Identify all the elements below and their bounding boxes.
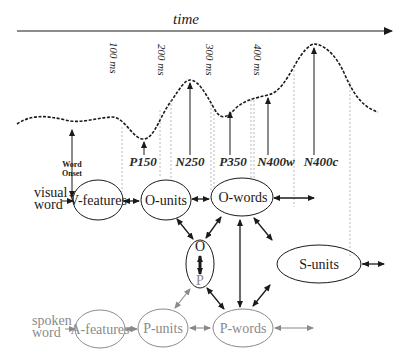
connection-owords-op xyxy=(206,217,221,238)
bimodal-interactive-activation-diagram: time 100 ms 200 ms 300 ms 400 ms P150 N2… xyxy=(0,0,404,361)
node-o-units: O-units xyxy=(141,180,191,220)
a-features-label: A-features xyxy=(70,322,129,337)
tick-label-200ms: 200 ms xyxy=(156,44,168,75)
spoken-word-input: spoken word xyxy=(32,313,75,340)
o-units-label: O-units xyxy=(145,193,187,208)
op-label-p: P xyxy=(196,273,204,288)
tick-label-100ms: 100 ms xyxy=(108,42,120,73)
connection-sunits-pwords xyxy=(253,285,270,306)
time-axis-label: time xyxy=(173,11,199,27)
op-label-o: O xyxy=(195,239,205,254)
node-s-units: S-units xyxy=(277,245,361,283)
component-label-n250: N250 xyxy=(175,154,205,169)
tick-label-400ms: 400 ms xyxy=(252,44,264,75)
word-onset-line1: Word xyxy=(62,160,82,169)
node-p-units: P-units xyxy=(138,309,188,347)
node-v-features: V-features xyxy=(69,180,127,220)
erp-waveform xyxy=(17,44,378,139)
word-onset-line2: Onset xyxy=(62,169,82,178)
component-label-n400w: N400w xyxy=(256,154,295,169)
component-label-p150: P150 xyxy=(129,154,157,169)
p-words-label: P-words xyxy=(220,321,267,336)
component-labels: P150 N250 P350 N400w N400c xyxy=(129,154,338,169)
connection-ounits-op xyxy=(177,219,193,239)
connection-punits-op xyxy=(175,289,190,308)
component-label-p350: P350 xyxy=(219,154,247,169)
tick-label-300ms: 300 ms xyxy=(204,43,216,75)
visual-word-input: visual word xyxy=(34,185,73,212)
time-ticks: 100 ms 200 ms 300 ms 400 ms xyxy=(108,42,264,75)
node-a-features: A-features xyxy=(70,310,129,348)
s-units-label: S-units xyxy=(299,257,339,272)
p-units-label: P-units xyxy=(143,321,183,336)
v-features-label: V-features xyxy=(69,193,127,208)
connection-owords-sunits xyxy=(254,218,272,240)
node-p-words: P-words xyxy=(213,309,273,347)
o-words-label: O-words xyxy=(219,190,268,205)
visual-word-label-line2: word xyxy=(34,197,63,212)
component-label-n400c: N400c xyxy=(303,154,339,169)
connection-op-pwords xyxy=(207,288,224,309)
node-o-words: O-words xyxy=(211,178,273,216)
node-op-interface: O P xyxy=(186,239,214,288)
spoken-word-label-line2: word xyxy=(32,325,61,340)
time-axis: time xyxy=(17,11,392,31)
